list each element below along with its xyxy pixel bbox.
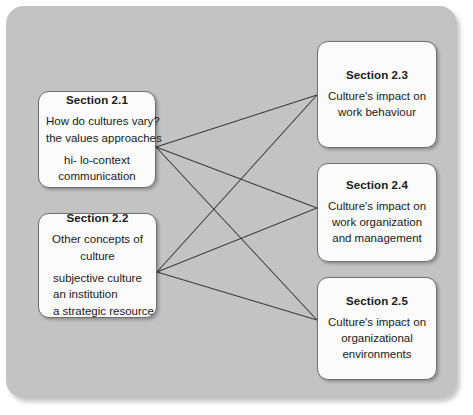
node-section-2-2-body-primary: Other concepts of culture — [39, 231, 156, 264]
node-section-2-1-body-primary: How do cultures vary? the values approac… — [39, 113, 155, 146]
node-section-2-4-body-primary: Culture's impact on work organization an… — [318, 198, 436, 247]
node-section-2-2[interactable]: Section 2.2 Other concepts of culture su… — [38, 213, 157, 318]
node-section-2-5-body-primary: Culture's impact on organizational envir… — [318, 314, 436, 363]
node-text-line: an institution — [53, 286, 149, 302]
node-section-2-3-body-primary: Culture's impact on work behaviour — [318, 88, 436, 121]
node-text-line: organizational — [325, 330, 429, 346]
node-text-line: How do cultures vary? — [46, 113, 148, 129]
node-section-2-1[interactable]: Section 2.1 How do cultures vary? the va… — [38, 91, 156, 188]
node-text-line: subjective culture — [53, 270, 149, 286]
node-section-2-4-title: Section 2.4 — [346, 179, 408, 191]
node-section-2-3[interactable]: Section 2.3 Culture's impact on work beh… — [317, 41, 437, 148]
node-text-line: Culture's impact on — [325, 314, 429, 330]
node-section-2-4[interactable]: Section 2.4 Culture's impact on work org… — [317, 163, 437, 262]
node-text-line: culture — [46, 248, 149, 264]
node-section-2-1-body-secondary: hi- lo-context communication — [39, 152, 155, 185]
node-section-2-5[interactable]: Section 2.5 Culture's impact on organiza… — [317, 277, 437, 380]
node-text-line: communication — [46, 168, 148, 184]
node-text-line: Culture's impact on — [325, 198, 429, 214]
node-text-line: a strategic resource — [53, 303, 149, 319]
node-section-2-2-title: Section 2.2 — [67, 212, 129, 224]
node-text-line: work behaviour — [325, 104, 429, 120]
node-section-2-3-title: Section 2.3 — [346, 69, 408, 81]
node-section-2-5-title: Section 2.5 — [346, 295, 408, 307]
node-section-2-1-title: Section 2.1 — [66, 94, 128, 106]
node-text-line: Other concepts of — [46, 231, 149, 247]
node-text-line: hi- lo-context — [46, 152, 148, 168]
node-text-line: environments — [325, 346, 429, 362]
node-text-line: work organization — [325, 214, 429, 230]
node-text-line: the values approaches — [46, 130, 148, 146]
node-text-line: Culture's impact on — [325, 88, 429, 104]
node-section-2-2-body-secondary: subjective culture an institution a stra… — [39, 270, 156, 319]
diagram-root: Section 2.1 How do cultures vary? the va… — [0, 0, 473, 415]
node-text-line: and management — [325, 230, 429, 246]
